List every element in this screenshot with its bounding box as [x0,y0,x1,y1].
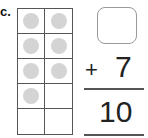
ten-frame-cell [45,59,72,84]
ten-frame-cell [18,59,45,84]
ten-frame-cell [18,84,45,109]
ten-frame-cell [18,9,45,34]
addend: 7 [115,52,132,82]
bottom-line [84,134,144,136]
sum-value: 10 [99,97,132,127]
sum-line [84,88,144,90]
problem-label: c. [0,4,11,19]
counter-dot-icon [51,63,67,79]
answer-input-box[interactable] [97,7,137,44]
ten-frame-cell [18,109,45,134]
ten-frame-cell [18,34,45,59]
counter-dot-icon [23,63,39,79]
ten-frame-cell [45,9,72,34]
counter-dot-icon [23,38,39,54]
counter-dot-icon [23,88,39,104]
counter-dot-icon [23,13,39,29]
plus-operator: + [85,59,98,81]
counter-dot-icon [51,38,67,54]
ten-frame-cell [45,84,72,109]
counter-dot-icon [51,13,67,29]
ten-frame-cell [45,109,72,134]
ten-frame-cell [45,34,72,59]
ten-frame [17,8,73,135]
